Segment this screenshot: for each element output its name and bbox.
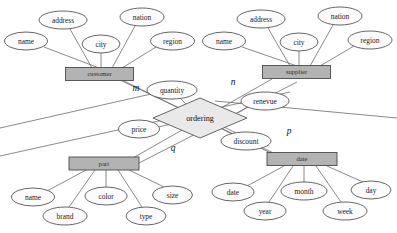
supplier-attribute-address[interactable]: address bbox=[237, 10, 285, 28]
supplier-attribute-city[interactable]: city bbox=[280, 33, 318, 51]
part-brand-label: brand bbox=[57, 212, 74, 221]
edge-customer-region bbox=[122, 47, 156, 68]
ordering-attribute-discount[interactable]: discount bbox=[221, 132, 271, 150]
edge-part-name bbox=[47, 170, 86, 191]
cardinality-label-p: p bbox=[286, 126, 292, 136]
edge-part-size bbox=[129, 170, 164, 187]
part-name-label: name bbox=[25, 193, 42, 202]
date-day-label: day bbox=[366, 186, 377, 195]
customer-attribute-name[interactable]: name bbox=[5, 32, 48, 50]
part-attribute-type[interactable]: type bbox=[126, 207, 166, 225]
ordering-attribute-price[interactable]: price bbox=[119, 120, 160, 138]
cardinality-label-q: q bbox=[171, 143, 176, 153]
supplier-attribute-nation[interactable]: nation bbox=[318, 7, 362, 25]
customer-city-label: city bbox=[95, 40, 106, 49]
part-attribute-color[interactable]: color bbox=[85, 187, 127, 205]
date-attribute-week[interactable]: week bbox=[323, 202, 367, 220]
date-attribute-month[interactable]: month bbox=[281, 182, 327, 200]
cardinality-label-n: n bbox=[231, 77, 236, 87]
supplier-region-label: region bbox=[361, 36, 380, 45]
edge-date-date bbox=[247, 166, 284, 186]
cardinality-label-m: m bbox=[133, 83, 140, 93]
part-attribute-brand[interactable]: brand bbox=[43, 207, 87, 225]
entity-date[interactable]: date bbox=[267, 153, 337, 166]
er-diagram-canvas: ordering quantity renevue price discount… bbox=[0, 0, 397, 233]
customer-address-label: address bbox=[52, 16, 74, 25]
date-date-label: date bbox=[227, 188, 240, 197]
customer-region-label: region bbox=[163, 37, 182, 46]
entity-part[interactable]: part bbox=[69, 157, 139, 170]
part-type-label: type bbox=[140, 212, 153, 221]
date-month-label: month bbox=[295, 187, 314, 196]
customer-name-label: name bbox=[18, 37, 35, 46]
renevue-label: renevue bbox=[253, 97, 277, 106]
relationship-ordering[interactable]: ordering bbox=[153, 98, 247, 138]
supplier-city-label: city bbox=[293, 38, 304, 47]
price-label: price bbox=[132, 125, 147, 134]
supplier-attribute-region[interactable]: region bbox=[348, 31, 392, 49]
customer-attribute-region[interactable]: region bbox=[151, 32, 195, 50]
date-label: date bbox=[297, 155, 308, 162]
supplier-attribute-name[interactable]: name bbox=[203, 32, 246, 50]
part-attribute-size[interactable]: size bbox=[153, 186, 193, 204]
part-color-label: color bbox=[98, 192, 114, 201]
supplier-nation-label: nation bbox=[331, 12, 350, 21]
er-diagram-svg: ordering quantity renevue price discount… bbox=[0, 0, 397, 233]
ordering-label: ordering bbox=[186, 114, 214, 123]
entity-supplier[interactable]: supplier bbox=[263, 66, 331, 79]
customer-nation-label: nation bbox=[133, 13, 152, 22]
edge-date-day bbox=[327, 166, 363, 182]
supplier-name-label: name bbox=[216, 37, 233, 46]
date-week-label: week bbox=[337, 207, 353, 216]
customer-attribute-nation[interactable]: nation bbox=[120, 8, 164, 26]
date-year-label: year bbox=[259, 207, 272, 216]
edge-supplier-region bbox=[320, 46, 354, 66]
supplier-label: supplier bbox=[286, 68, 308, 75]
date-attribute-date[interactable]: date bbox=[212, 183, 254, 201]
ordering-attribute-renevue[interactable]: renevue bbox=[241, 92, 289, 110]
customer-attribute-address[interactable]: address bbox=[39, 11, 87, 29]
part-attribute-name[interactable]: name bbox=[12, 188, 55, 206]
date-attribute-day[interactable]: day bbox=[351, 181, 391, 199]
part-size-label: size bbox=[167, 191, 179, 200]
entity-customer[interactable]: customer bbox=[66, 68, 134, 81]
part-label: part bbox=[99, 160, 109, 167]
discount-label: discount bbox=[233, 137, 259, 146]
customer-attribute-city[interactable]: city bbox=[82, 35, 120, 53]
ordering-attribute-quantity[interactable]: quantity bbox=[147, 81, 197, 99]
customer-label: customer bbox=[87, 70, 112, 77]
quantity-label: quantity bbox=[160, 86, 185, 95]
supplier-address-label: address bbox=[250, 15, 272, 24]
date-attribute-year[interactable]: year bbox=[244, 202, 286, 220]
